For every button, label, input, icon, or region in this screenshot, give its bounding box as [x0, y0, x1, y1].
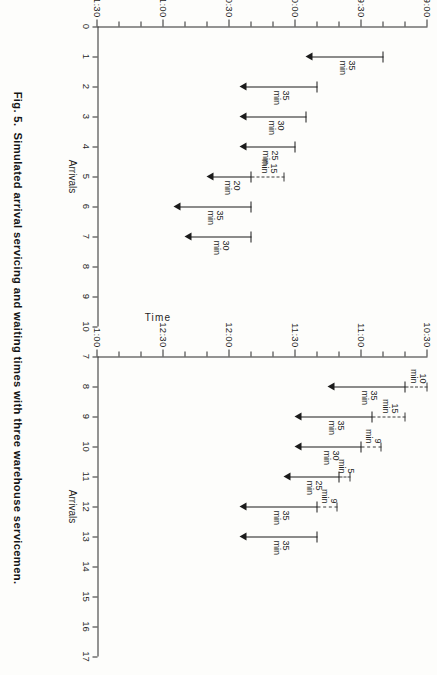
service-end-arrow-icon	[294, 412, 301, 420]
figure-body: 9:009:3010:0010:3011:0011:30012345678910…	[0, 0, 437, 675]
service-time-segment	[245, 146, 295, 147]
time-tick-label: 9:00	[422, 0, 433, 17]
arrival-tick	[92, 386, 97, 387]
arrival-tick-label: 17	[80, 651, 91, 662]
service-start-cap	[305, 111, 306, 122]
service-end-arrow-icon	[239, 82, 246, 90]
time-tick-label: 12:30	[158, 322, 169, 347]
arrival-tick-label: 13	[80, 531, 91, 542]
arrival-tick	[92, 176, 97, 177]
service-start-cap	[360, 441, 361, 452]
service-time-label: 35min	[205, 210, 223, 236]
service-start-cap	[404, 381, 405, 392]
waiting-time-label: 15min	[380, 389, 398, 413]
figure-number: Fig. 5.	[11, 91, 23, 126]
waiting-time-label: 9min	[319, 479, 337, 503]
time-tick-minor	[140, 351, 141, 356]
time-axis-title: Time	[144, 312, 171, 323]
time-tick-major	[96, 19, 97, 26]
service-time-segment	[300, 446, 361, 447]
time-tick-label: 10:30	[224, 0, 235, 17]
time-tick-minor	[184, 351, 185, 356]
arrival-tick	[92, 206, 97, 207]
arrival-tick-label: 16	[80, 621, 91, 632]
arrival-tick	[92, 596, 97, 597]
service-start-cap	[250, 201, 251, 212]
chart-panel-b: 10:3011:0011:3012:0012:301:0078910111213…	[97, 356, 427, 656]
arrival-tick-label: 10	[80, 441, 91, 452]
service-end-arrow-icon	[283, 472, 290, 480]
service-end-arrow-icon	[206, 172, 213, 180]
time-tick-minor	[118, 21, 119, 26]
service-time-segment	[179, 206, 251, 207]
service-time-label: 30min	[211, 240, 229, 266]
arrival-tick-label: 14	[80, 561, 91, 572]
arrivals-axis-title: Arrivals	[66, 489, 77, 522]
time-tick-label: 10:00	[290, 0, 301, 17]
service-time-segment	[190, 236, 251, 237]
arrival-tick-label: 11	[80, 471, 91, 481]
service-end-arrow-icon	[239, 532, 246, 540]
arrival-tick	[92, 626, 97, 627]
waiting-time-segment	[251, 176, 284, 177]
service-start-cap	[316, 81, 317, 92]
arrival-tick	[92, 236, 97, 237]
time-tick-major	[426, 19, 427, 26]
time-tick-minor	[250, 21, 251, 26]
service-time-segment	[245, 116, 306, 117]
arrival-tick	[92, 356, 97, 357]
time-tick-minor	[206, 21, 207, 26]
time-tick-major	[162, 349, 163, 356]
time-tick-minor	[272, 351, 273, 356]
service-time-segment	[289, 476, 339, 477]
waiting-time-label: 9min	[363, 419, 381, 443]
time-tick-label: 10:30	[422, 322, 433, 347]
time-axis-line	[97, 26, 427, 27]
service-time-label: 35min	[326, 420, 344, 446]
arrival-tick	[92, 266, 97, 267]
arrival-tick	[92, 86, 97, 87]
service-start-cap	[338, 471, 339, 482]
time-tick-label: 12:00	[224, 322, 235, 347]
arrival-tick-label: 7	[80, 233, 91, 238]
time-tick-minor	[272, 21, 273, 26]
service-time-label: 35min	[271, 540, 289, 566]
arrival-tick-label: 6	[80, 203, 91, 208]
arrival-tick-label: 4	[80, 143, 91, 148]
service-end-arrow-icon	[305, 52, 312, 60]
service-end-arrow-icon	[184, 232, 191, 240]
service-end-arrow-icon	[327, 382, 334, 390]
service-end-arrow-icon	[294, 442, 301, 450]
time-tick-minor	[184, 21, 185, 26]
arrival-tick-label: 0	[80, 23, 91, 28]
arrival-tick-label: 15	[80, 591, 91, 602]
service-start-cap	[250, 231, 251, 242]
figure-caption-text: Simulated arrival servicing and waiting …	[11, 132, 23, 584]
wait-start-cap	[404, 412, 405, 421]
service-time-segment	[245, 86, 317, 87]
arrival-tick-label: 10	[80, 321, 91, 332]
service-start-cap	[316, 531, 317, 542]
arrival-tick-label: 7	[80, 353, 91, 358]
time-tick-minor	[206, 351, 207, 356]
time-tick-label: 9:30	[356, 0, 367, 17]
arrival-tick	[92, 56, 97, 57]
arrivals-axis-title: Arrivals	[66, 159, 77, 192]
arrival-tick	[92, 656, 97, 657]
time-tick-minor	[316, 21, 317, 26]
time-tick-minor	[404, 21, 405, 26]
time-axis-line	[97, 356, 427, 357]
service-time-segment	[245, 506, 317, 507]
arrival-tick-label: 12	[80, 501, 91, 512]
arrival-tick-label: 5	[80, 173, 91, 178]
arrival-tick	[92, 146, 97, 147]
service-time-segment	[300, 416, 372, 417]
waiting-time-segment	[339, 476, 350, 477]
time-tick-major	[96, 349, 97, 356]
arrival-tick	[92, 506, 97, 507]
service-time-label: 20min	[222, 180, 240, 206]
service-time-segment	[245, 536, 317, 537]
service-end-arrow-icon	[173, 202, 180, 210]
time-tick-minor	[250, 351, 251, 356]
waiting-time-label: 15min	[259, 149, 277, 173]
